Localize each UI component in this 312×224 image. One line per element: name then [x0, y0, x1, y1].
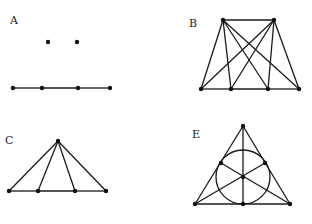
figure-b: B	[189, 17, 301, 91]
vertex-b-1	[272, 18, 276, 22]
edge-c-6	[58, 141, 106, 191]
vertex-b-0	[221, 18, 225, 22]
vertex-c-2	[36, 189, 40, 193]
vertex-e-6	[241, 175, 245, 179]
vertex-b-2	[199, 87, 203, 91]
graph-figures: A B C E	[0, 0, 312, 224]
vertex-a-3	[40, 86, 44, 90]
edge-c-4	[38, 141, 58, 191]
vertex-e-2	[241, 202, 245, 206]
figure-a: A	[9, 14, 112, 90]
vertex-b-3	[229, 87, 233, 91]
vertex-b-5	[297, 87, 301, 91]
vertex-c-3	[73, 189, 77, 193]
vertex-a-0	[46, 40, 50, 44]
vertex-a-5	[108, 86, 112, 90]
edge-e-0	[195, 126, 243, 204]
vertex-c-0	[56, 139, 60, 143]
vertex-e-1	[193, 202, 197, 206]
edge-b-10	[268, 20, 274, 89]
figure-c: C	[5, 134, 108, 193]
figure-label-e: E	[192, 128, 200, 141]
figure-e: E	[192, 124, 292, 206]
figure-label-c: C	[5, 134, 13, 147]
vertex-e-3	[288, 202, 292, 206]
vertex-e-4	[219, 161, 223, 165]
vertex-a-4	[76, 86, 80, 90]
vertex-a-2	[11, 86, 15, 90]
edge-e-1	[243, 126, 290, 204]
edge-b-11	[274, 20, 299, 89]
vertex-e-0	[241, 124, 245, 128]
vertex-b-4	[266, 87, 270, 91]
vertex-c-1	[7, 189, 11, 193]
vertex-a-1	[75, 40, 79, 44]
vertex-e-5	[263, 161, 267, 165]
vertex-c-4	[104, 189, 108, 193]
figure-label-a: A	[9, 14, 19, 27]
figure-label-b: B	[189, 17, 197, 30]
edge-c-3	[9, 141, 58, 191]
edge-c-5	[58, 141, 75, 191]
